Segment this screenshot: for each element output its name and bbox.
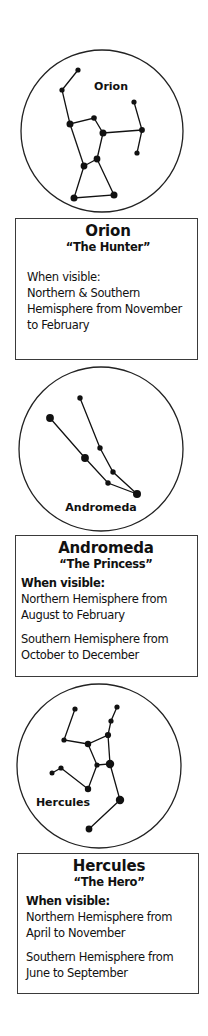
star-icon [97, 445, 102, 450]
star-icon [85, 786, 91, 792]
visibility-line: Southern Hemisphere from [21, 631, 191, 647]
visibility-northern: Northern Hemisphere from August to Febru… [21, 591, 191, 623]
hercules-diagram: Hercules [17, 684, 181, 848]
star-icon [114, 704, 119, 709]
star-icon [71, 195, 78, 202]
visibility-line: June to September [26, 965, 192, 981]
visibility-label: When visible: [27, 269, 189, 285]
andromeda-diagram-label: Andromeda [65, 501, 136, 514]
star-icon [86, 826, 93, 833]
star-icon [116, 796, 124, 804]
star-icon [139, 127, 145, 133]
star-icon [75, 67, 80, 72]
star-icon [61, 737, 66, 742]
card-title: Orion [27, 223, 189, 240]
star-icon [81, 454, 89, 462]
andromeda-info-card: Andromeda “The Princess” When visible: N… [15, 535, 198, 677]
visibility-line: to February [27, 317, 189, 333]
star-icon [46, 414, 54, 422]
star-icon [94, 762, 99, 767]
visibility-label: When visible: [26, 893, 192, 909]
visibility-southern: Southern Hemisphere from June to Septemb… [26, 949, 192, 981]
star-icon [67, 121, 74, 128]
visibility-line: October to December [21, 647, 191, 663]
card-title: Andromeda [21, 540, 191, 557]
star-icon [77, 395, 82, 400]
visibility-line: Southern Hemisphere from [26, 949, 192, 965]
star-icon [108, 718, 113, 723]
andromeda-diagram: Andromeda [19, 367, 183, 531]
visibility-line: Hemisphere from November [27, 301, 189, 317]
star-icon [106, 760, 114, 768]
orion-diagram-label: Orion [94, 80, 128, 93]
star-icon [111, 192, 118, 199]
star-icon [100, 130, 107, 137]
star-icon [58, 765, 63, 770]
visibility-line: August to February [21, 607, 191, 623]
star-icon [105, 480, 110, 485]
visibility-line: April to November [26, 925, 192, 941]
star-icon [110, 469, 115, 474]
andromeda-stars [46, 395, 141, 498]
visibility-label: When visible: [21, 575, 191, 591]
star-icon [85, 741, 91, 747]
card-nickname: “The Hunter” [27, 240, 189, 255]
orion-diagram: Orion [21, 50, 183, 212]
star-icon [134, 150, 139, 155]
andromeda-lines [50, 398, 137, 494]
hercules-info-card: Hercules “The Hero” When visible: Northe… [17, 853, 199, 994]
visibility-line: Northern Hemisphere from [26, 909, 192, 925]
visibility-southern: Southern Hemisphere from October to Dece… [21, 631, 191, 663]
star-icon [72, 706, 77, 711]
card-nickname: “The Hero” [26, 875, 192, 890]
star-icon [133, 490, 141, 498]
visibility-line: Northern & Southern [27, 285, 189, 301]
star-icon [59, 87, 64, 92]
visibility-line: Northern Hemisphere from [21, 591, 191, 607]
visibility-northern: Northern Hemisphere from April to Novemb… [26, 909, 192, 941]
star-icon [105, 732, 111, 738]
star-icon [131, 99, 136, 104]
orion-info-card: Orion “The Hunter” When visible: Norther… [15, 218, 198, 360]
visibility-text: Northern & Southern Hemisphere from Nove… [27, 285, 189, 333]
hercules-diagram-label: Hercules [36, 796, 91, 809]
hercules-stars [50, 704, 125, 832]
star-icon [94, 156, 101, 163]
card-title: Hercules [26, 858, 192, 875]
star-icon [91, 115, 97, 121]
star-icon [50, 771, 55, 776]
star-icon [81, 163, 88, 170]
card-nickname: “The Princess” [21, 557, 191, 572]
